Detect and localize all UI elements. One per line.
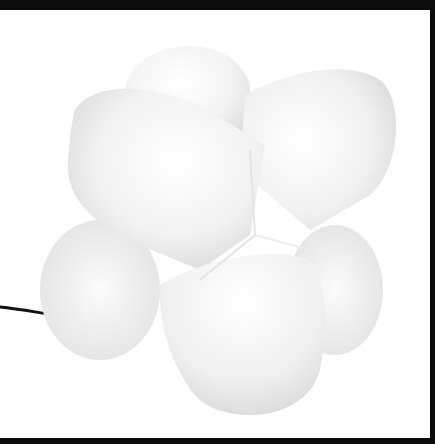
lamp-illustration (0, 10, 430, 438)
photo-frame (0, 0, 435, 444)
lobe-bottom (160, 254, 325, 415)
lamp-photo (0, 10, 430, 438)
seam (255, 235, 310, 250)
